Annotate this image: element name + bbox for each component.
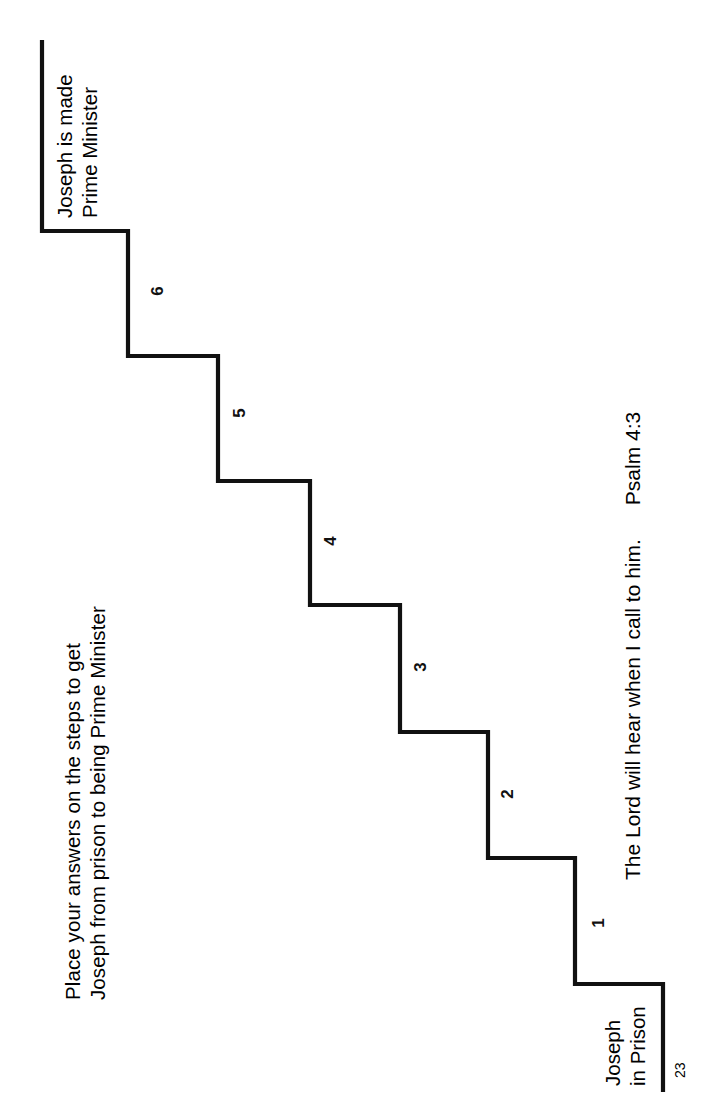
- memory-verse-text: The Lord will hear when I call to him.: [621, 539, 644, 880]
- step-number-6: 6: [148, 280, 168, 302]
- top-step-caption-line-1: Joseph is made: [52, 74, 77, 218]
- step-number-1: 1: [589, 912, 609, 934]
- memory-verse-reference: Psalm 4:3: [620, 412, 646, 505]
- instructions-line-2: Joseph from prison to being Prime Minist…: [85, 606, 110, 1000]
- page-number: 23: [672, 1062, 689, 1078]
- memory-verse: The Lord will hear when I call to him.Ps…: [620, 412, 646, 880]
- step-number-4: 4: [321, 530, 341, 552]
- bottom-step-caption: Joseph in Prison: [600, 1006, 650, 1086]
- bottom-step-caption-line-1: Joseph: [600, 1006, 625, 1086]
- step-number-5: 5: [230, 402, 250, 424]
- top-step-caption-line-2: Prime Minister: [77, 74, 102, 218]
- top-step-caption: Joseph is made Prime Minister: [52, 74, 102, 218]
- step-number-2: 2: [498, 783, 518, 805]
- instructions-text: Place your answers on the steps to get J…: [60, 606, 110, 1000]
- worksheet-page: Place your answers on the steps to get J…: [0, 0, 728, 1119]
- step-number-3: 3: [411, 656, 431, 678]
- instructions-line-1: Place your answers on the steps to get: [60, 606, 85, 1000]
- bottom-step-caption-line-2: in Prison: [625, 1006, 650, 1086]
